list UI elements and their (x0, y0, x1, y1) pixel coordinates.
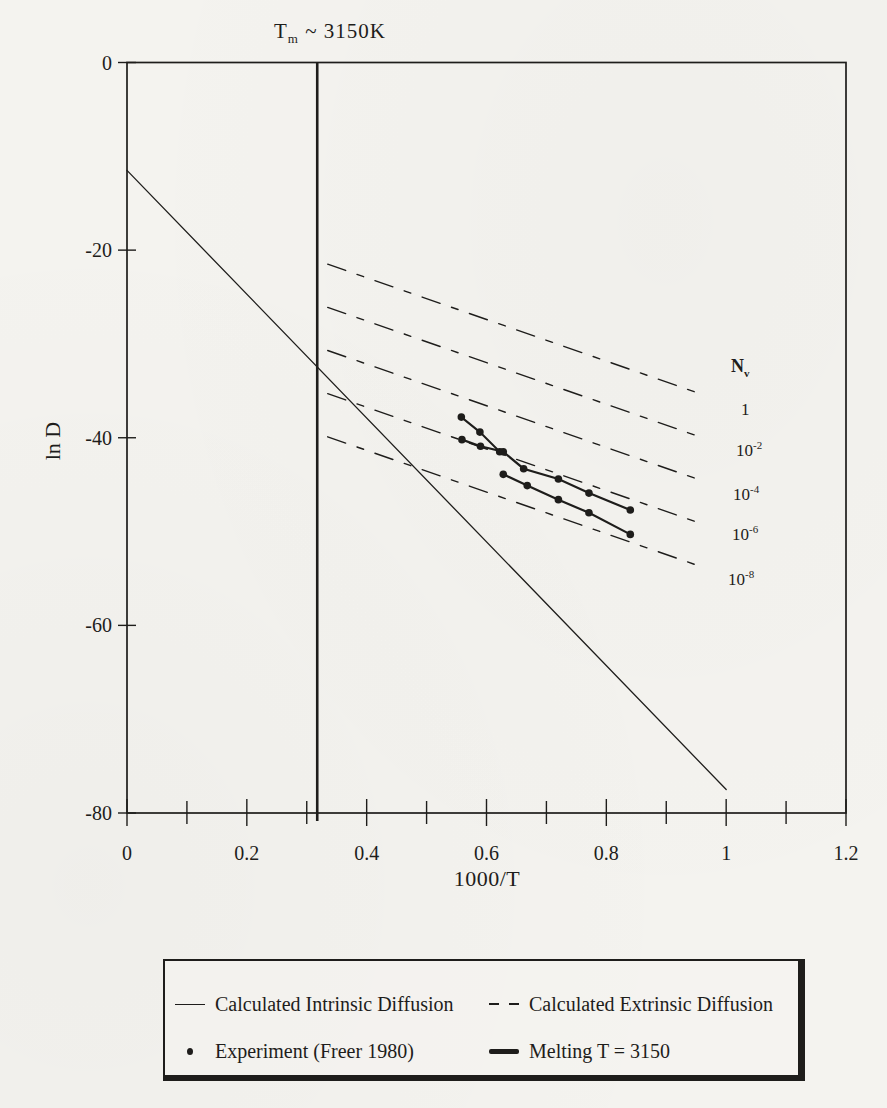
nv-column-header: Nv (731, 356, 750, 379)
extrinsic-nv-1e-6-line (328, 394, 706, 525)
legend-label-melting: Melting T = 3150 (529, 1040, 670, 1063)
chart-title-rest: ~ 3150K (305, 19, 386, 43)
nv-label-1e-8-exp: -8 (745, 568, 754, 580)
nv-header-base: N (731, 356, 744, 376)
nv-label-1e-2-base: 10 (736, 441, 753, 460)
nv-label-1e-4-exp: -4 (750, 483, 759, 495)
nv-label-1e-2: 10-2 (736, 439, 762, 461)
experiment-upper-line-point (627, 506, 635, 514)
diffusion-plot-canvas (0, 0, 887, 1108)
y-tick-label--20: -20 (54, 238, 112, 262)
nv-label-1e-6-exp: -6 (749, 523, 758, 535)
experiment-upper-line-point (585, 489, 593, 497)
x-tick-label-0.4: 0.4 (337, 841, 397, 865)
nv-label-1-base: 1 (741, 400, 750, 419)
thick-solid-line-swatch (489, 1049, 519, 1054)
legend-box: Calculated Intrinsic Diffusion Calculate… (163, 959, 805, 1081)
experiment-upper-line (462, 440, 630, 510)
nv-label-1e-4-base: 10 (733, 485, 750, 504)
thin-solid-line-swatch (175, 1004, 205, 1005)
extrinsic-nv-1-line (328, 264, 706, 395)
y-tick-label-0: 0 (54, 51, 112, 75)
y-tick-label--80: -80 (54, 801, 112, 825)
nv-label-1e-8-base: 10 (728, 570, 745, 589)
x-tick-label-0: 0 (97, 841, 157, 865)
x-axis-title: 1000/T (427, 866, 547, 892)
nv-label-1e-6: 10-6 (732, 523, 758, 545)
experiment-upper-line-point (477, 442, 485, 450)
experiment-lower-line-point (523, 482, 531, 490)
y-tick-label--60: -60 (54, 613, 112, 637)
intrinsic-diffusion-line (127, 170, 726, 789)
x-tick-label-0.2: 0.2 (217, 841, 277, 865)
experiment-branch-line-point (458, 413, 466, 421)
chart-title: Tm ~ 3150K (274, 19, 386, 47)
legend-entry-experiment: Experiment (Freer 1980) (175, 1039, 414, 1063)
experiment-lower-line-point (499, 471, 507, 479)
experiment-upper-line-point (555, 475, 563, 483)
nv-header-subscript: v (744, 367, 750, 379)
y-tick-label--40: -40 (54, 426, 112, 450)
nv-label-1e-8: 10-8 (728, 568, 754, 590)
legend-entry-melting: Melting T = 3150 (489, 1039, 670, 1063)
x-tick-label-0.6: 0.6 (457, 841, 517, 865)
dot-marker-icon (187, 1048, 193, 1055)
experiment-upper-line-point (458, 436, 466, 444)
chart-title-subscript: m (288, 31, 299, 46)
nv-label-1e-4: 10-4 (733, 483, 759, 505)
experiment-upper-line-point (499, 448, 507, 456)
dot-marker-swatch (175, 1047, 205, 1055)
dashed-line-swatch (489, 1003, 519, 1005)
scanned-diffusion-chart-page: Tm ~ 3150K ln D 1000/T Nv 1 10-2 10-4 10… (0, 0, 887, 1108)
experiment-lower-line-point (585, 509, 593, 517)
legend-entry-extrinsic: Calculated Extrinsic Diffusion (489, 992, 773, 1016)
nv-label-1e-6-base: 10 (732, 525, 749, 544)
extrinsic-nv-1e-8-line (328, 437, 706, 568)
nv-label-1e-2-exp: -2 (753, 439, 762, 451)
chart-title-base: T (274, 19, 288, 43)
legend-label-intrinsic: Calculated Intrinsic Diffusion (215, 993, 453, 1016)
x-tick-label-1: 1 (696, 841, 756, 865)
legend-entry-intrinsic: Calculated Intrinsic Diffusion (175, 992, 453, 1016)
x-tick-label-1.2: 1.2 (816, 841, 876, 865)
experiment-upper-line-point (520, 465, 528, 473)
experiment-branch-line-point (476, 428, 484, 436)
extrinsic-nv-1e-2-line (328, 307, 706, 438)
legend-label-experiment: Experiment (Freer 1980) (215, 1040, 414, 1063)
x-tick-label-0.8: 0.8 (576, 841, 636, 865)
nv-label-1: 1 (741, 398, 750, 420)
experiment-lower-line-point (627, 531, 635, 539)
legend-label-extrinsic: Calculated Extrinsic Diffusion (529, 993, 773, 1016)
experiment-lower-line-point (555, 496, 563, 504)
